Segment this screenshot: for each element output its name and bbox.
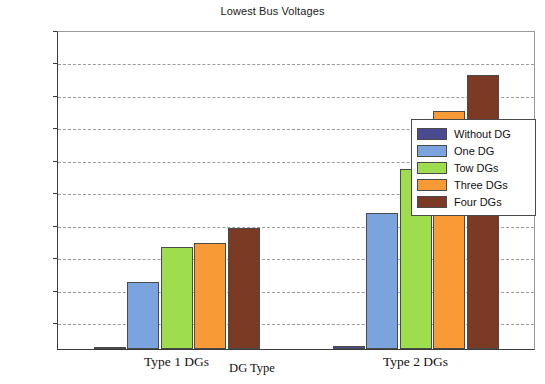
legend-swatch: [417, 162, 447, 174]
gridline: [58, 64, 534, 65]
legend-swatch: [417, 196, 447, 208]
legend-label: Tow DGs: [454, 162, 499, 174]
legend-swatch: [417, 145, 447, 157]
x-tick-label: Type 1 DGs: [144, 354, 209, 370]
chart-figure: Lowest Bus Voltages Bus Voltage (p.u) 0.…: [0, 0, 545, 384]
x-axis-label: DG Type: [229, 361, 275, 376]
bar: [127, 282, 159, 349]
bar: [333, 346, 365, 349]
y-tick-mark: [53, 193, 57, 194]
bar: [228, 228, 260, 349]
y-tick-mark: [53, 128, 57, 129]
bar: [161, 247, 193, 349]
legend-label: Four DGs: [454, 196, 502, 208]
bar: [194, 243, 226, 349]
legend-entry: One DG: [417, 142, 529, 159]
y-tick-mark: [53, 291, 57, 292]
legend-label: Three DGs: [454, 179, 508, 191]
bar: [94, 347, 126, 349]
x-tick-label: Type 2 DGs: [383, 354, 448, 370]
bar: [366, 213, 398, 349]
y-tick-mark: [53, 31, 57, 32]
legend-entry: Four DGs: [417, 193, 529, 210]
legend-label: One DG: [454, 145, 494, 157]
chart-legend: Without DGOne DGTow DGsThree DGsFour DGs: [411, 119, 536, 216]
legend-swatch: [417, 128, 447, 140]
y-tick-mark: [53, 226, 57, 227]
legend-entry: Without DG: [417, 125, 529, 142]
chart-title: Lowest Bus Voltages: [0, 5, 545, 17]
y-tick-mark: [53, 161, 57, 162]
gridline: [58, 97, 534, 98]
legend-label: Without DG: [454, 128, 511, 140]
y-tick-mark: [53, 63, 57, 64]
y-tick-mark: [53, 258, 57, 259]
legend-swatch: [417, 179, 447, 191]
legend-entry: Tow DGs: [417, 159, 529, 176]
legend-entry: Three DGs: [417, 176, 529, 193]
y-tick-mark: [53, 96, 57, 97]
y-tick-mark: [53, 323, 57, 324]
